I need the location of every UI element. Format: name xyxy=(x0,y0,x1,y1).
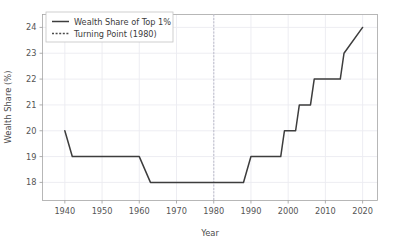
y-tick-label: 24 xyxy=(26,22,36,32)
y-tick-label: 22 xyxy=(26,74,36,84)
x-tick-label: 2010 xyxy=(315,206,336,216)
y-tick-label: 23 xyxy=(26,48,36,58)
x-axis-title: Year xyxy=(200,228,219,238)
x-tick-label: 1980 xyxy=(203,206,224,216)
x-axis-tick-labels: 194019501960197019801990200020102020 xyxy=(54,206,373,216)
x-tick-label: 1990 xyxy=(241,206,262,216)
legend-label-series-0: Wealth Share of Top 1% xyxy=(74,17,171,27)
x-tick-label: 2020 xyxy=(352,206,373,216)
y-tick-label: 20 xyxy=(26,126,36,136)
chart-legend: Wealth Share of Top 1% Turning Point (19… xyxy=(46,12,173,42)
x-tick-label: 1950 xyxy=(92,206,113,216)
legend-label-series-1: Turning Point (1980) xyxy=(73,29,157,39)
y-tick-label: 19 xyxy=(26,152,36,162)
wealth-share-line-chart: 18192021222324 1940195019601970198019902… xyxy=(0,0,395,249)
y-tick-label: 18 xyxy=(26,177,36,187)
y-tick-label: 21 xyxy=(26,100,36,110)
y-axis-title: Wealth Share (%) xyxy=(3,71,13,144)
x-tick-label: 1970 xyxy=(166,206,187,216)
x-tick-label: 1940 xyxy=(54,206,75,216)
chart-figure: 18192021222324 1940195019601970198019902… xyxy=(0,0,395,249)
x-tick-label: 1960 xyxy=(129,206,150,216)
x-tick-label: 2000 xyxy=(278,206,299,216)
